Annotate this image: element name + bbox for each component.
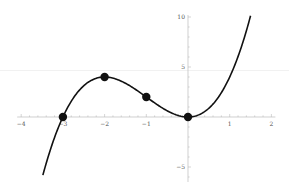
y-tick-label: 5: [181, 63, 185, 70]
y-tick-label: 10: [177, 13, 185, 20]
x-tick-label: 1: [228, 120, 232, 127]
x-tick-label: −1: [142, 120, 151, 127]
tick-labels: −4−3−2−112−5510: [17, 13, 274, 170]
data-point: [184, 113, 192, 121]
cubic-function-plot: −4−3−2−112−5510: [0, 0, 289, 190]
x-tick-label: −2: [100, 120, 109, 127]
x-tick-label: −4: [17, 120, 26, 127]
data-point: [59, 113, 67, 121]
y-tick-label: −5: [176, 163, 185, 170]
data-point: [100, 73, 108, 81]
data-point: [142, 93, 150, 101]
x-tick-label: 2: [269, 120, 273, 127]
